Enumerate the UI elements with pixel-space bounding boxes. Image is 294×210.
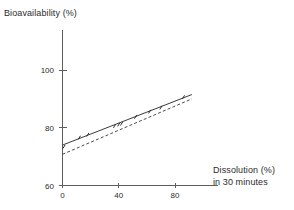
y-tick-label-80: 80: [45, 124, 54, 133]
x-tick-label-80: 80: [171, 191, 180, 200]
regression-line-solid: [63, 95, 192, 146]
x-tick-label-0: 0: [60, 191, 65, 200]
x-tick-label-40: 40: [114, 191, 123, 200]
axes-group: [63, 30, 219, 186]
series-group: [63, 95, 192, 155]
data-points-group: [63, 95, 185, 148]
chart-figure: Bioavailability (%) Dissolution (%) in 3…: [0, 0, 294, 210]
y-tick-label-60: 60: [45, 182, 54, 191]
regression-line-dashed: [63, 99, 192, 154]
data-point-0: [63, 145, 65, 149]
plot-area: 6080100 04080: [0, 0, 294, 210]
y-tick-label-100: 100: [41, 66, 55, 75]
